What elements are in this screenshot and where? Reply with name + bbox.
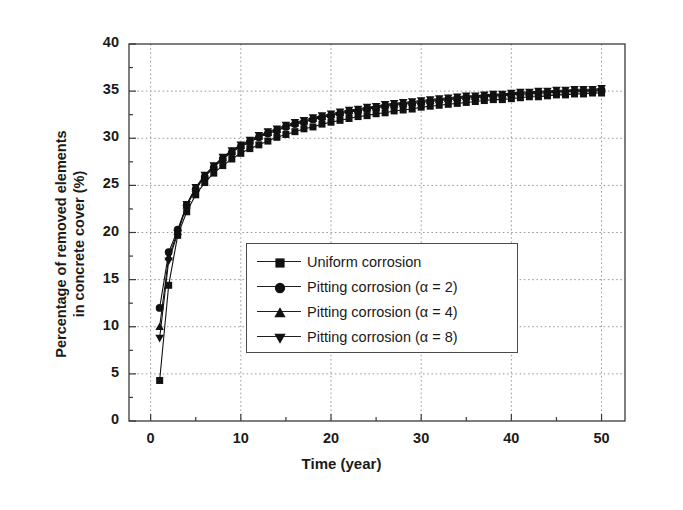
x-tick-label: 20	[301, 430, 361, 446]
legend-marker-triangle-down-icon	[255, 326, 303, 348]
x-axis-title: Time (year)	[0, 455, 683, 472]
x-tick-label: 0	[121, 430, 181, 446]
legend-label: Pitting corrosion (α = 2)	[303, 279, 458, 295]
legend-item: Pitting corrosion (α = 4)	[247, 299, 517, 324]
legend-label: Uniform corrosion	[303, 254, 421, 270]
legend-marker-triangle-up-icon	[255, 301, 303, 323]
legend-item: Pitting corrosion (α = 2)	[247, 274, 517, 299]
x-tick-label: 30	[391, 430, 451, 446]
legend-item: Uniform corrosion	[247, 249, 517, 274]
legend-label: Pitting corrosion (α = 4)	[303, 304, 458, 320]
legend-label: Pitting corrosion (α = 8)	[303, 329, 458, 345]
x-tick-label: 50	[572, 430, 632, 446]
y-axis-title-line2: in concrete cover (%)	[70, 171, 88, 318]
gridlines	[129, 44, 625, 421]
legend-marker-circle-icon	[255, 276, 303, 298]
y-axis-title: Percentage of removed elements in concre…	[48, 34, 92, 454]
y-axis-title-line1: Percentage of removed elements	[52, 130, 70, 357]
chart-figure: 0510152025303540 01020304050 Time (year)…	[0, 0, 683, 510]
x-tick-label: 10	[211, 430, 271, 446]
legend-item: Pitting corrosion (α = 8)	[247, 324, 517, 349]
legend-marker-square-icon	[255, 251, 303, 273]
x-tick-label: 40	[481, 430, 541, 446]
chart-legend: Uniform corrosionPitting corrosion (α = …	[246, 243, 518, 353]
